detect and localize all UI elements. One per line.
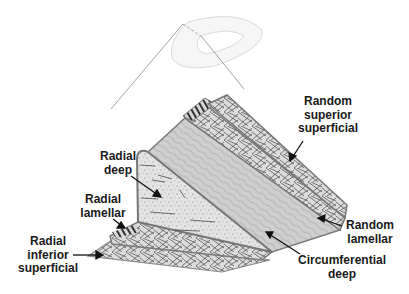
label-line: Random bbox=[276, 95, 380, 109]
label-radial-deep: Radial deep bbox=[92, 150, 144, 177]
label-line: Circumferential bbox=[290, 254, 394, 268]
label-line: lamellar bbox=[340, 233, 400, 247]
label-random-lamellar: Random lamellar bbox=[340, 219, 400, 246]
label-circumferential-deep: Circumferential deep bbox=[290, 254, 394, 281]
label-line: Random bbox=[340, 219, 400, 233]
label-line: deep bbox=[290, 268, 394, 282]
label-line: inferior bbox=[12, 249, 84, 263]
label-line: deep bbox=[92, 164, 144, 178]
label-radial-lamellar: Radial lamellar bbox=[73, 193, 133, 220]
projection-line-left bbox=[111, 24, 183, 109]
label-line: Radial bbox=[73, 193, 133, 207]
label-radial-inferior-superficial: Radial inferior superficial bbox=[12, 235, 84, 276]
label-line: superior bbox=[276, 109, 380, 123]
label-random-superior-superficial: Random superior superficial bbox=[276, 95, 380, 136]
label-line: Radial bbox=[92, 150, 144, 164]
label-line: superficial bbox=[12, 262, 84, 276]
label-line: superficial bbox=[276, 122, 380, 136]
meniscus-inset-icon bbox=[111, 17, 262, 109]
label-line: Radial bbox=[12, 235, 84, 249]
label-line: lamellar bbox=[73, 207, 133, 221]
